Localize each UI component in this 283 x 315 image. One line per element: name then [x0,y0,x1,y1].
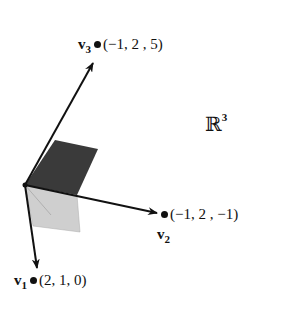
label-v2-coords: (−1, 2 , −1) [158,206,238,223]
point-v1-icon [30,277,37,284]
label-v2-name: v2 [157,226,170,243]
origin-point [23,183,28,188]
label-v1: v1(2, 1, 0) [14,272,87,289]
label-space: ℝ3 [205,112,227,136]
point-v3-icon [94,41,101,48]
label-v3: v3(−1, 2 , 5) [78,36,163,53]
point-v2-icon [161,211,168,218]
